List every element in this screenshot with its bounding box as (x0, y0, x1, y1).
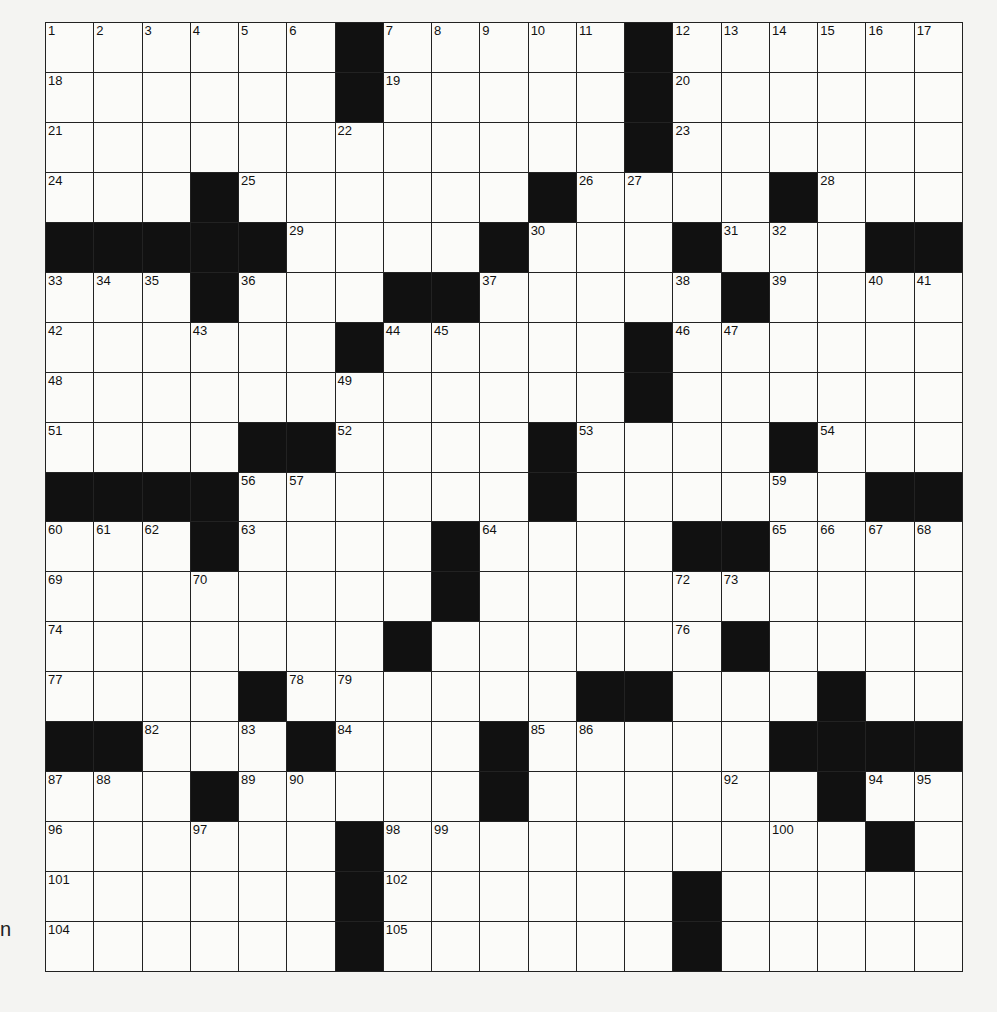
grid-cell[interactable] (432, 123, 479, 172)
grid-cell[interactable]: 12 (673, 23, 720, 72)
grid-cell[interactable]: 57 (287, 473, 334, 522)
grid-cell[interactable]: 94 (866, 772, 913, 821)
grid-cell[interactable] (432, 722, 479, 771)
grid-cell[interactable] (529, 672, 576, 721)
grid-cell[interactable] (577, 473, 624, 522)
grid-cell[interactable]: 24 (46, 173, 93, 222)
grid-cell[interactable] (577, 872, 624, 921)
grid-cell[interactable] (432, 922, 479, 971)
grid-cell[interactable]: 32 (770, 223, 817, 272)
grid-cell[interactable] (770, 622, 817, 671)
grid-cell[interactable]: 60 (46, 522, 93, 571)
grid-cell[interactable]: 89 (239, 772, 286, 821)
grid-cell[interactable]: 63 (239, 522, 286, 571)
grid-cell[interactable] (287, 123, 334, 172)
grid-cell[interactable] (673, 373, 720, 422)
grid-cell[interactable]: 97 (191, 822, 238, 871)
grid-cell[interactable]: 61 (94, 522, 141, 571)
grid-cell[interactable] (529, 123, 576, 172)
grid-cell[interactable] (94, 572, 141, 621)
grid-cell[interactable] (336, 522, 383, 571)
grid-cell[interactable]: 99 (432, 822, 479, 871)
grid-cell[interactable]: 56 (239, 473, 286, 522)
grid-cell[interactable] (432, 223, 479, 272)
grid-cell[interactable] (143, 622, 190, 671)
grid-cell[interactable]: 84 (336, 722, 383, 771)
grid-cell[interactable]: 15 (818, 23, 865, 72)
grid-cell[interactable]: 66 (818, 522, 865, 571)
grid-cell[interactable]: 4 (191, 23, 238, 72)
grid-cell[interactable] (432, 173, 479, 222)
grid-cell[interactable] (432, 423, 479, 472)
grid-cell[interactable]: 17 (915, 23, 962, 72)
grid-cell[interactable] (384, 123, 431, 172)
grid-cell[interactable]: 25 (239, 173, 286, 222)
grid-cell[interactable] (915, 572, 962, 621)
grid-cell[interactable] (287, 173, 334, 222)
grid-cell[interactable] (94, 323, 141, 372)
grid-cell[interactable]: 76 (673, 622, 720, 671)
grid-cell[interactable] (480, 123, 527, 172)
grid-cell[interactable] (818, 223, 865, 272)
grid-cell[interactable] (239, 922, 286, 971)
grid-cell[interactable] (529, 922, 576, 971)
grid-cell[interactable] (191, 922, 238, 971)
grid-cell[interactable] (94, 173, 141, 222)
grid-cell[interactable]: 83 (239, 722, 286, 771)
grid-cell[interactable]: 101 (46, 872, 93, 921)
grid-cell[interactable] (915, 672, 962, 721)
grid-cell[interactable]: 105 (384, 922, 431, 971)
grid-cell[interactable] (529, 872, 576, 921)
grid-cell[interactable] (143, 822, 190, 871)
grid-cell[interactable]: 28 (818, 173, 865, 222)
grid-cell[interactable] (384, 772, 431, 821)
grid-cell[interactable]: 73 (722, 572, 769, 621)
grid-cell[interactable]: 38 (673, 273, 720, 322)
grid-cell[interactable]: 45 (432, 323, 479, 372)
grid-cell[interactable] (722, 373, 769, 422)
grid-cell[interactable]: 69 (46, 572, 93, 621)
grid-cell[interactable]: 36 (239, 273, 286, 322)
grid-cell[interactable] (94, 423, 141, 472)
grid-cell[interactable]: 64 (480, 522, 527, 571)
grid-cell[interactable] (191, 722, 238, 771)
grid-cell[interactable] (915, 123, 962, 172)
grid-cell[interactable] (625, 273, 672, 322)
grid-cell[interactable] (432, 73, 479, 122)
grid-cell[interactable] (866, 872, 913, 921)
grid-cell[interactable] (287, 73, 334, 122)
grid-cell[interactable]: 23 (673, 123, 720, 172)
grid-cell[interactable] (336, 473, 383, 522)
grid-cell[interactable] (529, 373, 576, 422)
grid-cell[interactable] (239, 323, 286, 372)
grid-cell[interactable] (770, 772, 817, 821)
grid-cell[interactable]: 48 (46, 373, 93, 422)
grid-cell[interactable] (818, 273, 865, 322)
grid-cell[interactable] (625, 522, 672, 571)
grid-cell[interactable] (866, 672, 913, 721)
grid-cell[interactable] (239, 123, 286, 172)
grid-cell[interactable] (722, 922, 769, 971)
grid-cell[interactable] (143, 572, 190, 621)
grid-cell[interactable]: 42 (46, 323, 93, 372)
grid-cell[interactable] (722, 173, 769, 222)
grid-cell[interactable] (384, 722, 431, 771)
grid-cell[interactable] (722, 672, 769, 721)
grid-cell[interactable] (143, 323, 190, 372)
grid-cell[interactable]: 31 (722, 223, 769, 272)
grid-cell[interactable] (480, 622, 527, 671)
grid-cell[interactable] (625, 722, 672, 771)
grid-cell[interactable] (239, 73, 286, 122)
grid-cell[interactable]: 37 (480, 273, 527, 322)
grid-cell[interactable]: 19 (384, 73, 431, 122)
grid-cell[interactable]: 100 (770, 822, 817, 871)
grid-cell[interactable] (625, 473, 672, 522)
grid-cell[interactable] (143, 123, 190, 172)
grid-cell[interactable]: 90 (287, 772, 334, 821)
grid-cell[interactable] (529, 522, 576, 571)
grid-cell[interactable]: 8 (432, 23, 479, 72)
grid-cell[interactable] (287, 922, 334, 971)
grid-cell[interactable]: 51 (46, 423, 93, 472)
grid-cell[interactable] (625, 822, 672, 871)
grid-cell[interactable] (480, 872, 527, 921)
